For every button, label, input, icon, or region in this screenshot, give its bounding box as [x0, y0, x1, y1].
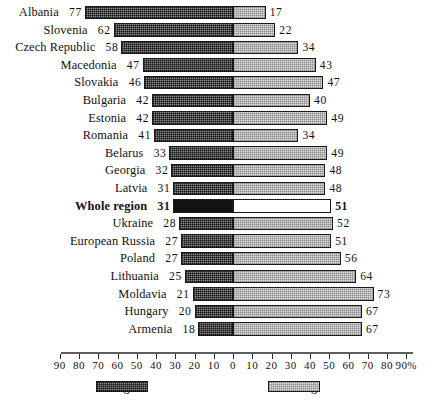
value-label-wrong-series: 48 [329, 180, 342, 198]
table-row: Poland2756 [0, 250, 446, 268]
category-label: Albania [19, 4, 59, 22]
bar-segment-wrong [233, 129, 298, 143]
category-label: Bulgaria [83, 92, 126, 110]
value-label-right-series: 27 [165, 250, 178, 268]
table-row: Macedonia4743 [0, 57, 446, 75]
bar-segment-right [185, 270, 233, 284]
value-label-right-series: 18 [183, 321, 196, 339]
bar-segment-right [195, 305, 234, 319]
bar-segment-right [114, 23, 233, 37]
value-label-right-series: 46 [129, 74, 142, 92]
value-label-wrong-series: 22 [279, 22, 292, 40]
bar-segment-wrong [233, 234, 331, 248]
category-label: Moldavia [118, 286, 166, 304]
category-label: Whole region [75, 198, 147, 216]
table-row: Armenia1867 [0, 321, 446, 339]
value-label-wrong-series: 49 [331, 145, 344, 163]
bar-segment-right [179, 217, 233, 231]
axis-tick-label-right: 20 [266, 359, 278, 371]
bar-segment-wrong [233, 94, 310, 108]
category-label: Georgia [105, 162, 145, 180]
table-row: Slovakia4647 [0, 74, 446, 92]
category-label: Latvia [115, 180, 147, 198]
axis-tick-label-right: 40 [304, 359, 316, 371]
table-row: Moldavia2173 [0, 286, 446, 304]
value-label-wrong-series: 34 [302, 127, 315, 145]
bar-segment-wrong [233, 322, 362, 336]
bar-segment-right [144, 76, 233, 90]
value-label-right-series: 41 [138, 127, 151, 145]
value-label-wrong-series: 56 [345, 250, 358, 268]
value-label-right-series: 25 [169, 268, 182, 286]
value-label-right-series: 42 [136, 110, 149, 128]
table-row: Slovenia6222 [0, 22, 446, 40]
axis-tick-label-right: 50 [323, 359, 335, 371]
axis-tick-label-left: 40 [150, 359, 162, 371]
bar-segment-wrong [233, 111, 327, 125]
value-label-wrong-series: 73 [378, 286, 391, 304]
value-label-wrong-series: 48 [329, 162, 342, 180]
category-label: Macedonia [61, 57, 117, 75]
value-label-right-series: 33 [154, 145, 167, 163]
bar-segment-wrong [233, 6, 266, 20]
category-label: Czech Republic [15, 39, 95, 57]
table-row: Whole region3151 [0, 198, 446, 216]
value-label-right-series: 28 [163, 215, 176, 233]
category-label: Estonia [88, 110, 126, 128]
bar-segment-right [173, 182, 233, 196]
bar-segment-right [121, 41, 233, 55]
table-row: Georgia3248 [0, 162, 446, 180]
bar-segment-wrong [233, 164, 325, 178]
axis-tick-label-left: 80 [73, 359, 85, 371]
bar-segment-right [181, 234, 233, 248]
bar-segment-wrong [233, 287, 374, 301]
axis-tick-label-right: 90% [396, 359, 417, 371]
value-label-right-series: 62 [98, 22, 111, 40]
bar-segment-wrong [233, 41, 298, 55]
value-label-wrong-series: 34 [302, 39, 315, 57]
bar-segment-wrong [233, 199, 331, 213]
diverging-bar-chart: Albania7717Slovenia6222Czech Republic583… [0, 0, 446, 401]
table-row: Bulgaria4240 [0, 92, 446, 110]
axis-tick-label-right: 30 [285, 359, 297, 371]
bar-segment-wrong [233, 146, 327, 160]
value-label-right-series: 58 [106, 39, 119, 57]
category-label: Hungary [124, 303, 168, 321]
bar-segment-right [181, 252, 233, 266]
axis-tick-label-right: 80 [381, 359, 393, 371]
bar-segment-wrong [233, 305, 362, 319]
category-label: Ukraine [113, 215, 154, 233]
axis-tick-label-left: 70 [92, 359, 104, 371]
axis-tick-label-left: 20 [189, 359, 201, 371]
axis-tick-label-left: 30 [169, 359, 181, 371]
value-label-right-series: 42 [136, 92, 149, 110]
axis-line [61, 352, 413, 354]
value-label-wrong-series: 51 [335, 233, 348, 251]
table-row: Ukraine2852 [0, 215, 446, 233]
value-label-wrong-series: 47 [327, 74, 340, 92]
legend-swatch-right-icon [96, 381, 148, 392]
x-axis: 9080706050403020100102030405060708090% [0, 352, 446, 378]
value-label-wrong-series: 67 [366, 303, 379, 321]
table-row: Estonia4249 [0, 110, 446, 128]
value-label-wrong-series: 67 [366, 321, 379, 339]
category-label: Poland [120, 250, 155, 268]
axis-tick-label-left: 60 [112, 359, 124, 371]
axis-tick-label-right: 70 [362, 359, 374, 371]
value-label-right-series: 77 [69, 4, 82, 22]
axis-tick-label-left: 50 [131, 359, 143, 371]
bar-segment-wrong [233, 182, 325, 196]
bar-segment-right [193, 287, 233, 301]
value-label-wrong-series: 64 [360, 268, 373, 286]
category-label: Romania [83, 127, 128, 145]
value-label-wrong-series: 43 [320, 57, 333, 75]
bar-segment-wrong [233, 270, 356, 284]
value-label-right-series: 32 [156, 162, 169, 180]
chart-plot-area: Albania7717Slovenia6222Czech Republic583… [0, 4, 446, 348]
table-row: Belarus3349 [0, 145, 446, 163]
category-label: Slovenia [43, 22, 87, 40]
value-label-right-series: 31 [158, 198, 171, 216]
value-label-right-series: 27 [165, 233, 178, 251]
legend-item-right: = Right [96, 379, 139, 395]
table-row: Hungary2067 [0, 303, 446, 321]
